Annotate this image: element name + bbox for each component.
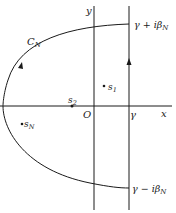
arrow-contour-icon [18, 62, 23, 69]
x-axis-label: x [161, 108, 167, 119]
top-endpoint-label: γ + iβN [134, 19, 169, 32]
origin-label: O [83, 109, 91, 120]
s2-label: s2 [68, 95, 77, 107]
sN-label: sN [24, 119, 35, 131]
arrow-up-icon [127, 58, 132, 65]
bottom-endpoint-label: γ − iβN [132, 183, 167, 196]
point-s1 [103, 85, 106, 88]
y-axis-label: y [85, 5, 92, 16]
s1-label: s1 [108, 82, 117, 94]
contour-diagram: y x O γ γ + iβN γ − iβN CN s1 s2 sN [0, 0, 176, 213]
contour-label: CN [27, 36, 42, 49]
gamma-label: γ [130, 109, 136, 120]
point-sN [21, 123, 24, 126]
